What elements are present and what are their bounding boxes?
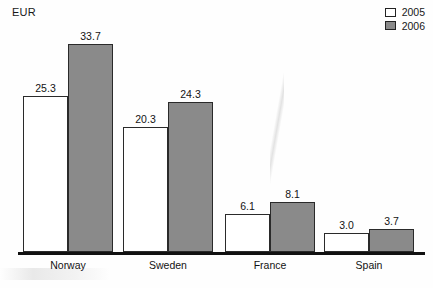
plot-area: 25.333.7Norway20.324.3Sweden6.18.1France… <box>0 0 433 288</box>
bar-chart: EUR 2005 2006 25.333.7Norway20.324.3Swed… <box>0 0 433 288</box>
bar-value-label-sweden-2006: 24.3 <box>168 88 213 100</box>
x-axis-baseline <box>18 252 425 255</box>
bar-spain-2006 <box>369 229 414 252</box>
bar-value-label-spain-2006: 3.7 <box>369 215 414 227</box>
bar-sweden-2006 <box>168 102 213 252</box>
bar-value-label-france-2006: 8.1 <box>270 188 315 200</box>
category-label-france: France <box>225 259 315 271</box>
bar-value-label-norway-2005: 25.3 <box>23 82 68 94</box>
bar-value-label-spain-2005: 3.0 <box>324 219 369 231</box>
category-label-norway: Norway <box>23 259 113 271</box>
bar-norway-2006 <box>68 44 113 252</box>
bar-france-2005 <box>225 214 270 252</box>
bar-sweden-2005 <box>123 127 168 252</box>
category-label-spain: Spain <box>324 259 414 271</box>
bar-spain-2005 <box>324 233 369 252</box>
bar-norway-2005 <box>23 96 68 252</box>
bar-value-label-sweden-2005: 20.3 <box>123 113 168 125</box>
category-label-sweden: Sweden <box>123 259 213 271</box>
bar-value-label-norway-2006: 33.7 <box>68 30 113 42</box>
bar-france-2006 <box>270 202 315 252</box>
bar-value-label-france-2005: 6.1 <box>225 200 270 212</box>
